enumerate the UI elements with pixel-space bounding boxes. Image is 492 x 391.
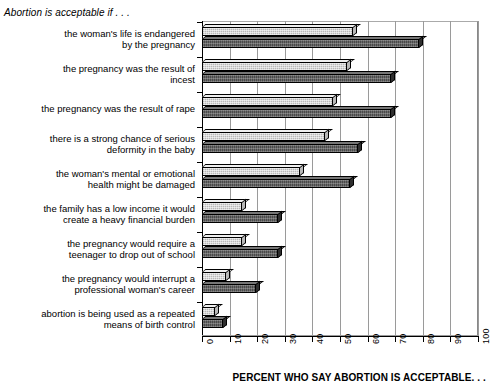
bar-series-a [202, 269, 230, 281]
bar-top-face [202, 304, 222, 307]
bar-top-face [202, 71, 399, 74]
bar-face [202, 39, 419, 48]
bar-face [202, 319, 223, 328]
x-axis-tick [340, 336, 341, 342]
category-label: the pregnancy was the result of incest [5, 63, 195, 85]
bar-side-face [226, 269, 230, 281]
category-label: the woman's mental or emotional health m… [5, 168, 195, 190]
category-label: the woman's life is endangered by the pr… [5, 28, 195, 50]
bar-top-face [202, 24, 360, 27]
x-axis-tick-label: 30 [289, 334, 298, 344]
bar-series-a [202, 59, 351, 71]
bar-series-b [202, 176, 354, 188]
category-row: the pregnancy would require a teenager t… [202, 231, 478, 266]
bar-side-face [278, 211, 282, 223]
category-tick [197, 22, 202, 23]
category-row: the pregnancy was the result of rape [202, 91, 478, 126]
bar-series-a [202, 304, 219, 316]
page-title: Abortion is acceptable if . . . [4, 7, 130, 18]
bar-face [202, 237, 242, 246]
bar-face [202, 74, 391, 83]
bar-side-face [223, 316, 227, 328]
bar-face [202, 167, 300, 176]
category-tick [197, 197, 202, 198]
category-row: the pregnancy would interrupt a professi… [202, 266, 478, 301]
bar-top-face [202, 176, 358, 179]
bar-top-face [202, 106, 399, 109]
category-row: the family has a low income it would cre… [202, 196, 478, 231]
bar-top-face [202, 164, 308, 167]
category-tick [197, 162, 202, 163]
bar-side-face [350, 176, 354, 188]
bar-face [202, 144, 358, 153]
category-label: the pregnancy would interrupt a professi… [5, 273, 195, 295]
bar-series-b [202, 281, 260, 293]
category-label: there is a strong chance of serious defo… [5, 133, 195, 155]
x-axis-tick [368, 336, 369, 342]
bar-face [202, 27, 353, 36]
bar-series-a [202, 129, 329, 141]
category-tick [197, 127, 202, 128]
x-axis-tick [395, 336, 396, 342]
bar-side-face [419, 36, 423, 48]
category-row: the pregnancy was the result of incest [202, 56, 478, 91]
bar-side-face [300, 164, 304, 176]
x-axis-tick [202, 336, 203, 342]
bar-side-face [278, 246, 282, 258]
x-axis-tick-label: 40 [316, 334, 325, 344]
bar-face [202, 202, 242, 211]
category-row: the woman's mental or emotional health m… [202, 161, 478, 196]
x-axis-tick-label: 100 [482, 328, 491, 344]
bar-series-a [202, 94, 337, 106]
bar-series-b [202, 36, 423, 48]
bar-series-a [202, 234, 246, 246]
bar-face [202, 179, 350, 188]
bar-series-b [202, 316, 227, 328]
bar-series-a [202, 164, 304, 176]
x-axis-tick [312, 336, 313, 342]
bar-face [202, 62, 347, 71]
bar-side-face [333, 94, 337, 106]
category-tick [197, 302, 202, 303]
x-axis-tick [230, 336, 231, 342]
category-row: the woman's life is endangered by the pr… [202, 21, 478, 56]
bar-top-face [202, 36, 427, 39]
bar-face [202, 97, 333, 106]
x-axis-tick-label: 80 [427, 334, 436, 344]
bar-side-face [256, 281, 260, 293]
bar-face [202, 284, 256, 293]
bar-series-b [202, 71, 395, 83]
category-tick [197, 57, 202, 58]
bar-face [202, 272, 226, 281]
bar-face [202, 109, 391, 118]
category-label: the family has a low income it would cre… [5, 203, 195, 225]
bar-top-face [202, 129, 333, 132]
x-axis-tick [285, 336, 286, 342]
bar-top-face [202, 246, 286, 249]
bar-top-face [202, 211, 286, 214]
plot-area: the woman's life is endangered by the pr… [202, 21, 478, 336]
x-axis-tick-label: 10 [234, 334, 243, 344]
bar-side-face [391, 106, 395, 118]
bar-side-face [358, 141, 362, 153]
x-axis: 0102030405060708090100 [202, 336, 478, 370]
x-axis-tick-label: 90 [454, 334, 463, 344]
bar-series-a [202, 199, 246, 211]
category-row: abortion is being used as a repeated mea… [202, 301, 478, 336]
bar-series-b [202, 246, 282, 258]
x-axis-tick-label: 0 [206, 339, 215, 344]
bar-series-b [202, 106, 395, 118]
bar-face [202, 249, 278, 258]
bar-series-b [202, 211, 282, 223]
bar-top-face [202, 59, 355, 62]
category-label: the pregnancy was the result of rape [5, 103, 195, 114]
x-axis-tick-label: 50 [344, 334, 353, 344]
bar-top-face [202, 94, 341, 97]
x-axis-tick-label: 70 [399, 334, 408, 344]
x-axis-tick-label: 20 [261, 334, 270, 344]
x-axis-tick [257, 336, 258, 342]
bar-side-face [391, 71, 395, 83]
category-tick [197, 92, 202, 93]
bar-top-face [202, 141, 366, 144]
bar-series-b [202, 141, 362, 153]
